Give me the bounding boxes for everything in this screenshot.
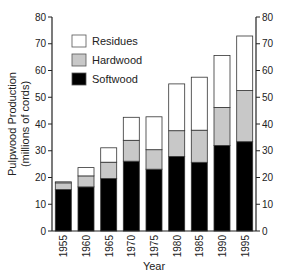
y-axis-title: Pulpwood Production <box>6 72 18 176</box>
bar-segment-hardwood-1955 <box>55 183 71 190</box>
legend-label-hardwood: Hardwood <box>92 54 142 66</box>
stacked-bar-chart: 195519601965197019751980198519901995 010… <box>0 0 283 277</box>
y-tick-label: 50 <box>35 92 47 103</box>
legend: ResiduesHardwoodSoftwood <box>72 35 142 85</box>
bar-segment-softwood-1960 <box>78 187 94 231</box>
y-axis-subtitle: (millions of cords) <box>19 81 31 167</box>
bar-segment-softwood-1980 <box>169 156 185 231</box>
right-y-tick-label: 70 <box>262 38 274 49</box>
right-y-tick-label: 50 <box>262 92 274 103</box>
x-axis-title: Year <box>143 260 166 272</box>
bar-segment-residues-1960 <box>78 168 94 176</box>
y-tick-label: 30 <box>35 145 47 156</box>
bar-segment-residues-1980 <box>169 84 185 131</box>
legend-swatch-hardwood <box>72 54 86 66</box>
x-tick-label: 1975 <box>149 235 160 258</box>
bar-segment-hardwood-1985 <box>191 130 207 162</box>
bar-segment-softwood-1965 <box>101 179 117 231</box>
x-tick-label: 1980 <box>172 235 183 258</box>
x-tick-label: 1965 <box>104 235 115 258</box>
y-tick-label: 10 <box>35 199 47 210</box>
y-tick-label: 60 <box>35 65 47 76</box>
legend-swatch-softwood <box>72 73 86 85</box>
bar-segment-hardwood-1960 <box>78 176 94 187</box>
bar-segment-softwood-1955 <box>55 190 71 232</box>
bar-segment-hardwood-1980 <box>169 131 185 157</box>
right-y-tick-label: 40 <box>262 119 274 130</box>
right-y-tick-label: 60 <box>262 65 274 76</box>
x-tick-label: 1970 <box>126 235 137 258</box>
y-tick-label: 40 <box>35 119 47 130</box>
right-y-tick-label: 30 <box>262 145 274 156</box>
bar-segment-softwood-1970 <box>123 161 139 231</box>
bar-segment-residues-1990 <box>214 56 230 108</box>
bar-segment-residues-1975 <box>146 117 162 150</box>
bar-segment-residues-1985 <box>191 77 207 130</box>
bars-group: 195519601965197019751980198519901995 <box>55 36 252 257</box>
bar-segment-hardwood-1990 <box>214 107 230 145</box>
y-tick-label: 20 <box>35 172 47 183</box>
right-y-tick-label: 0 <box>262 226 268 237</box>
x-tick-label: 1960 <box>81 235 92 258</box>
bar-segment-residues-1995 <box>237 36 253 91</box>
bar-segment-residues-1965 <box>101 148 117 162</box>
legend-label-residues: Residues <box>92 35 138 47</box>
y-tick-label: 80 <box>35 12 47 23</box>
y-tick-label: 70 <box>35 38 47 49</box>
y-tick-label: 0 <box>40 226 46 237</box>
x-tick-label: 1995 <box>240 235 251 258</box>
right-y-tick-label: 20 <box>262 172 274 183</box>
x-tick-label: 1990 <box>217 235 228 258</box>
right-y-tick-label: 80 <box>262 12 274 23</box>
bar-segment-hardwood-1965 <box>101 162 117 178</box>
bar-segment-hardwood-1970 <box>123 140 139 161</box>
bar-segment-hardwood-1975 <box>146 150 162 170</box>
bar-segment-softwood-1985 <box>191 162 207 231</box>
bar-segment-softwood-1975 <box>146 169 162 231</box>
x-tick-label: 1985 <box>194 235 205 258</box>
right-y-tick-label: 10 <box>262 199 274 210</box>
x-tick-label: 1955 <box>58 235 69 258</box>
bar-segment-softwood-1995 <box>237 142 253 231</box>
bar-segment-hardwood-1995 <box>237 91 253 142</box>
legend-label-softwood: Softwood <box>92 73 138 85</box>
bar-segment-softwood-1990 <box>214 145 230 231</box>
legend-swatch-residues <box>72 35 86 47</box>
bar-segment-residues-1955 <box>55 182 71 183</box>
bar-segment-residues-1970 <box>123 117 139 140</box>
